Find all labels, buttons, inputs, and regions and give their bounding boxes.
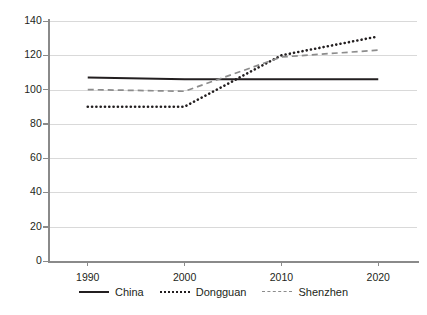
y-tick-label: 40 xyxy=(30,185,42,197)
gridline xyxy=(49,227,417,228)
legend-swatch-dotted-icon xyxy=(160,287,190,297)
line-chart: 020406080100120140 1990200020102020 Chin… xyxy=(0,0,427,315)
gridline xyxy=(49,158,417,159)
y-tick-label: 120 xyxy=(24,48,42,60)
chart-legend: ChinaDongguanShenzhen xyxy=(0,286,427,298)
y-tick-mark xyxy=(43,21,48,22)
y-tick-label: 0 xyxy=(36,254,42,266)
gridline xyxy=(49,124,417,125)
y-tick-label: 80 xyxy=(30,117,42,129)
x-tick-label: 2010 xyxy=(270,271,293,283)
gridline xyxy=(49,21,417,22)
y-axis-line xyxy=(48,19,50,263)
legend-item-china[interactable]: China xyxy=(79,286,144,298)
gridline xyxy=(49,55,417,56)
y-tick-mark xyxy=(43,158,48,159)
series-line-dongguan xyxy=(88,36,379,106)
x-tick-label: 2000 xyxy=(173,271,196,283)
x-axis-line xyxy=(48,261,419,263)
y-tick-label: 140 xyxy=(24,14,42,26)
y-tick-mark xyxy=(43,261,48,262)
x-tick-mark xyxy=(184,261,185,266)
legend-swatch-solid-icon xyxy=(79,287,109,297)
y-tick-mark xyxy=(43,192,48,193)
y-tick-label: 60 xyxy=(30,151,42,163)
gridline xyxy=(49,192,417,193)
series-line-china xyxy=(88,78,379,80)
y-tick-mark xyxy=(43,89,48,90)
y-tick-mark xyxy=(43,55,48,56)
legend-label: Shenzhen xyxy=(298,286,348,298)
x-tick-label: 2020 xyxy=(367,271,390,283)
y-tick-label: 100 xyxy=(24,83,42,95)
y-tick-mark xyxy=(43,226,48,227)
legend-item-shenzhen[interactable]: Shenzhen xyxy=(262,286,348,298)
legend-label: China xyxy=(115,286,144,298)
series-line-shenzhen xyxy=(88,50,379,91)
legend-item-dongguan[interactable]: Dongguan xyxy=(160,286,247,298)
x-tick-mark xyxy=(281,261,282,266)
y-tick-mark xyxy=(43,123,48,124)
x-tick-label: 1990 xyxy=(76,271,99,283)
legend-label: Dongguan xyxy=(196,286,247,298)
x-tick-mark xyxy=(378,261,379,266)
gridline xyxy=(49,90,417,91)
x-tick-mark xyxy=(87,261,88,266)
legend-swatch-dashed-icon xyxy=(262,287,292,297)
y-tick-label: 20 xyxy=(30,220,42,232)
